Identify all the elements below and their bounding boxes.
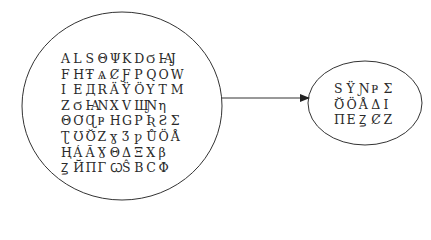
- glyph: N: [98, 98, 110, 114]
- glyph: Ů: [146, 129, 158, 145]
- glyph: Ҏ: [98, 113, 110, 129]
- glyph: Ψ: [110, 51, 122, 67]
- glyph: Δ: [371, 97, 383, 113]
- glyph: K: [122, 51, 134, 67]
- glyph: S: [85, 51, 97, 67]
- glyph-row: ⱧÁÃƔΘΔΞXβ: [61, 145, 183, 161]
- glyph: Д: [85, 82, 97, 98]
- glyph: Ö: [159, 129, 171, 145]
- glyph: B: [134, 160, 146, 176]
- glyph: Q: [146, 67, 158, 83]
- glyph: T: [159, 82, 171, 98]
- glyph: Σ: [384, 81, 396, 97]
- glyph: Θ: [110, 145, 122, 161]
- glyph: Ƒ: [122, 67, 134, 83]
- glyph: C: [146, 160, 158, 176]
- glyph: Ȼ: [110, 67, 122, 83]
- glyph: Φ: [159, 160, 171, 176]
- glyph: Ʒ: [122, 129, 134, 145]
- glyph: Θ: [98, 51, 110, 67]
- glyph: Ꙁ: [61, 160, 73, 176]
- glyph: η: [159, 98, 171, 114]
- glyph: Ɲ: [359, 81, 371, 97]
- glyph: Ʈ: [61, 129, 73, 145]
- glyph: Ÿ: [122, 82, 134, 98]
- glyph: L: [73, 51, 85, 67]
- glyph: ɣ: [110, 129, 122, 145]
- glyph: Γ: [98, 160, 110, 176]
- glyph-row: Ʊ̆ÖÅΔI: [334, 97, 396, 113]
- glyph-row: ꙀЙΠΓꞶŜBCΦ: [61, 160, 183, 176]
- glyph: ƿ: [134, 129, 146, 145]
- glyph: Ö: [134, 82, 146, 98]
- glyph: Ŧ: [85, 67, 97, 83]
- glyph: I: [384, 97, 396, 113]
- target-set-glyphs: SŸƝҎΣƱ̆ÖÅΔIΠEꙀȻZ: [334, 81, 396, 128]
- glyph: Π: [85, 160, 97, 176]
- glyph: Ʀ: [146, 113, 158, 129]
- glyph: Σ: [171, 113, 183, 129]
- glyph: Ꙗ: [159, 51, 171, 67]
- glyph: Ʊ̆: [85, 129, 97, 145]
- glyph: R: [98, 82, 110, 98]
- glyph: S: [334, 81, 346, 97]
- glyph: X: [110, 98, 122, 114]
- glyph: Å: [171, 129, 183, 145]
- glyph: H: [110, 113, 122, 129]
- glyph: Z: [384, 112, 396, 128]
- glyph: Ŝ: [122, 160, 134, 176]
- glyph: Ϭ: [73, 98, 85, 114]
- glyph: Z: [61, 98, 73, 114]
- glyph: Ã: [85, 145, 97, 161]
- glyph: Ɋ: [85, 113, 97, 129]
- glyph: Ш: [134, 98, 146, 114]
- glyph: W: [171, 67, 183, 83]
- glyph: Θ: [61, 113, 73, 129]
- glyph-row: ΘƠɊҎHGPƦƧΣ: [61, 113, 183, 129]
- glyph-row: ΠEꙀȻZ: [334, 112, 396, 128]
- glyph: Ꞷ: [110, 160, 122, 176]
- glyph: Ꙗ: [85, 98, 97, 114]
- glyph: Ϭ: [146, 51, 158, 67]
- glyph: G: [122, 113, 134, 129]
- glyph: Ҏ: [371, 81, 383, 97]
- glyph: Й: [73, 160, 85, 176]
- glyph: O: [159, 67, 171, 83]
- glyph: Ä: [110, 82, 122, 98]
- glyph: Ɲ: [146, 98, 158, 114]
- glyph: Ƨ: [159, 113, 171, 129]
- glyph: A: [61, 51, 73, 67]
- glyph: Ȼ: [371, 112, 383, 128]
- glyph: Δ: [122, 145, 134, 161]
- glyph-row: IEДRÄŸÖYTM: [61, 82, 183, 98]
- glyph-row: ALSΘΨKDϬꙖJ: [61, 51, 183, 67]
- glyph: Å: [359, 97, 371, 113]
- glyph: Ѧ: [98, 67, 110, 83]
- glyph: Ɣ: [98, 145, 110, 161]
- glyph-row: FHŦѦȻƑPQOW: [61, 67, 183, 83]
- glyph: M: [171, 82, 183, 98]
- glyph: V: [122, 98, 134, 114]
- glyph: Ʊ̆: [334, 97, 346, 113]
- glyph: Π: [334, 112, 346, 128]
- glyph: Ʊ: [73, 129, 85, 145]
- glyph: β: [159, 145, 171, 161]
- glyph: Á: [73, 145, 85, 161]
- source-set-glyphs: ALSΘΨKDϬꙖJFHŦѦȻƑPQOWIEДRÄŸÖYTMZϬꙖNXVШƝηΘ…: [61, 51, 183, 176]
- glyph: Ξ: [134, 145, 146, 161]
- glyph: H: [73, 67, 85, 83]
- glyph: P: [134, 113, 146, 129]
- glyph: X: [146, 145, 158, 161]
- glyph: E: [346, 112, 358, 128]
- glyph: P: [134, 67, 146, 83]
- glyph: Z: [98, 129, 110, 145]
- glyph: Ꙁ: [359, 112, 371, 128]
- glyph: E: [73, 82, 85, 98]
- glyph: F: [61, 67, 73, 83]
- glyph: Y: [146, 82, 158, 98]
- glyph: Ÿ: [346, 81, 358, 97]
- glyph: D: [134, 51, 146, 67]
- glyph: I: [61, 82, 73, 98]
- glyph: J: [171, 51, 183, 67]
- glyph: Ö: [346, 97, 358, 113]
